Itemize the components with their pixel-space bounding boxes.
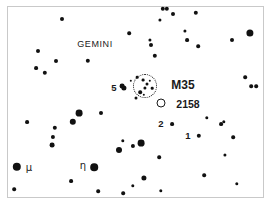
star-point (43, 71, 47, 75)
label-object-2158: 2158 (176, 99, 199, 110)
star-point (25, 120, 29, 124)
label-object-m35: M35 (171, 79, 194, 91)
star-point (254, 84, 258, 88)
star-point (223, 153, 226, 156)
star-point (50, 143, 55, 148)
star-point (230, 38, 234, 42)
star-point (243, 75, 247, 79)
star-point (171, 12, 175, 16)
star-point (131, 144, 135, 148)
cluster-marker-m35 (133, 74, 157, 98)
star-point (246, 29, 253, 36)
star-point (135, 97, 138, 100)
star-point (121, 191, 125, 195)
star-point (120, 84, 125, 89)
star-point (34, 66, 38, 70)
label-star-1: 1 (185, 131, 190, 141)
star-point (54, 59, 58, 63)
star-point (159, 189, 162, 192)
star-point (121, 139, 124, 142)
star-point (185, 38, 189, 42)
star-point (149, 43, 153, 47)
star-point (131, 184, 134, 187)
star-chart: GEMINIM352158521μη (0, 0, 273, 211)
star-point (60, 17, 64, 21)
star-point (157, 155, 161, 159)
label-star-5: 5 (111, 83, 116, 93)
star-point (194, 11, 198, 15)
star-point (197, 134, 201, 138)
star-point (141, 175, 146, 180)
star-point (222, 120, 225, 123)
star-field: GEMINIM352158521μη (0, 0, 273, 211)
star-point (96, 189, 100, 193)
label-star-eta: η (80, 161, 86, 171)
star-point (86, 59, 90, 63)
star-point (148, 38, 151, 41)
label-star-mu: μ (26, 163, 32, 173)
star-point (153, 54, 157, 58)
star-point (196, 44, 200, 48)
label-star-2: 2 (158, 119, 163, 129)
star-point (53, 126, 57, 130)
star-point (36, 49, 40, 53)
star-point (76, 110, 83, 117)
star-point (158, 18, 161, 21)
star-point (90, 163, 98, 171)
star-point (130, 80, 132, 82)
star-point (69, 179, 73, 183)
star-point (12, 187, 16, 191)
star-point (235, 182, 238, 185)
star-point (138, 140, 145, 147)
star-point (170, 122, 174, 126)
star-point (99, 111, 103, 115)
star-point (13, 163, 21, 171)
star-point (231, 135, 235, 139)
label-constellation-gemini: GEMINI (77, 40, 113, 49)
star-point (205, 116, 208, 119)
star-point (202, 173, 206, 177)
star-point (116, 147, 122, 153)
cluster-marker-ngc2158 (157, 99, 166, 108)
star-point (127, 31, 131, 35)
star-point (70, 119, 76, 125)
star-point (183, 29, 186, 32)
star-point (249, 84, 253, 88)
star-point (51, 135, 55, 139)
star-point (165, 7, 169, 11)
